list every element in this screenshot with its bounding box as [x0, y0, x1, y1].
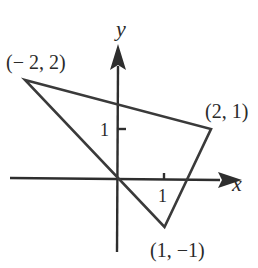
y-tick-label: 1 [100, 120, 109, 140]
coordinate-diagram: x y 1 1 (− 2, 2) (2, 1) (1, −1) [0, 0, 258, 268]
x-axis-label: x [231, 171, 242, 196]
vertex-label-a: (− 2, 2) [6, 51, 66, 74]
vertex-label-b: (2, 1) [205, 100, 248, 123]
y-axis-label: y [114, 16, 126, 41]
x-tick-label: 1 [158, 186, 167, 206]
vertex-label-c: (1, −1) [150, 239, 205, 262]
y-axis [117, 66, 118, 252]
